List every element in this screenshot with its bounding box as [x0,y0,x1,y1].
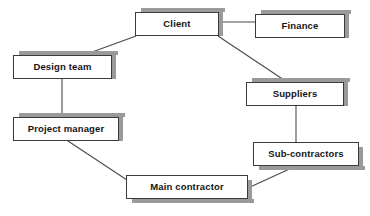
node-client[interactable]: Client [135,12,219,36]
node-label-sub_contractors: Sub-contractors [268,149,344,159]
node-label-main_contractor: Main contractor [150,182,224,192]
node-label-suppliers: Suppliers [273,89,318,99]
node-finance[interactable]: Finance [255,14,345,38]
node-shadow-right-sub_contractors [359,147,363,170]
node-shadow-right-main_contractor [248,180,252,203]
node-sub_contractors[interactable]: Sub-contractors [253,142,359,166]
node-suppliers[interactable]: Suppliers [246,82,344,106]
connector-project_manager-main_contractor [68,141,127,180]
node-main_contractor[interactable]: Main contractor [126,175,248,199]
node-shadow-right-design_team [112,51,116,79]
relationship-diagram: ClientFinanceDesign teamSuppliersProject… [0,0,370,216]
node-design_team[interactable]: Design team [13,55,112,79]
node-shadow-right-project_manager [119,113,123,141]
node-shadow-right-finance [345,10,349,38]
node-shadow-right-suppliers [344,78,348,106]
node-label-project_manager: Project manager [28,124,105,134]
connector-client-suppliers [218,36,287,82]
node-project_manager[interactable]: Project manager [13,117,119,141]
node-label-design_team: Design team [33,62,91,72]
node-shadow-right-client [219,8,223,36]
node-shadow-sub_contractors [259,166,365,170]
node-shadow-main_contractor [132,199,254,203]
node-label-finance: Finance [282,21,319,31]
node-label-client: Client [163,19,190,29]
